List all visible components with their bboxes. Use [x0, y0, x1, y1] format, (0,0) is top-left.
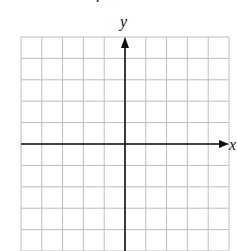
coordinate-grid: [0, 0, 237, 251]
y-axis-label: y: [120, 14, 127, 30]
x-axis-arrow-icon: [219, 140, 229, 148]
x-axis-label: x: [229, 137, 236, 153]
y-axis-arrow-icon: [121, 37, 129, 48]
